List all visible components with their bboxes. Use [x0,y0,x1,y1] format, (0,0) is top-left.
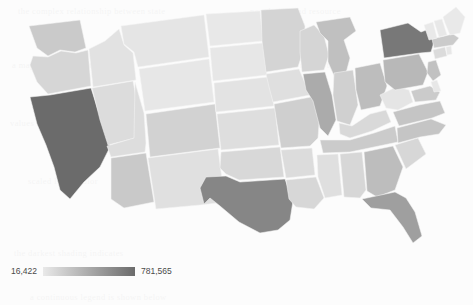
state-ME[interactable] [443,7,465,35]
state-CT[interactable] [433,47,447,59]
us-choropleth-svg [0,2,473,252]
state-FL[interactable] [362,192,422,243]
state-AR[interactable] [281,148,315,178]
state-WY[interactable] [139,59,214,111]
state-OH[interactable] [355,63,387,110]
color-scale-legend: 16,422 781,565 [11,263,172,279]
state-NE[interactable] [214,77,274,112]
state-KS[interactable] [217,108,279,150]
state-MT[interactable] [121,15,209,67]
state-TX[interactable] [200,176,293,233]
legend-gradient-bar [43,267,135,276]
choropleth-figure: the complex relationship between state p… [0,0,473,305]
state-AL[interactable] [340,152,366,198]
state-RI[interactable] [446,46,452,55]
state-MN[interactable] [261,8,305,72]
states-layer [29,7,465,243]
state-ND[interactable] [206,11,263,46]
state-PA[interactable] [383,54,428,90]
state-CO[interactable] [146,104,220,157]
legend-min-label: 16,422 [11,267,37,276]
state-MO[interactable] [274,97,320,148]
state-WA[interactable] [29,20,86,56]
state-SD[interactable] [210,43,267,81]
state-OK[interactable] [220,147,284,180]
state-OR[interactable] [30,50,91,94]
legend-max-label: 781,565 [141,267,172,276]
state-IN[interactable] [333,70,358,125]
state-GA[interactable] [364,146,403,197]
us-map-container [0,2,473,252]
state-AZ[interactable] [111,153,154,208]
state-NJ[interactable] [427,60,441,81]
